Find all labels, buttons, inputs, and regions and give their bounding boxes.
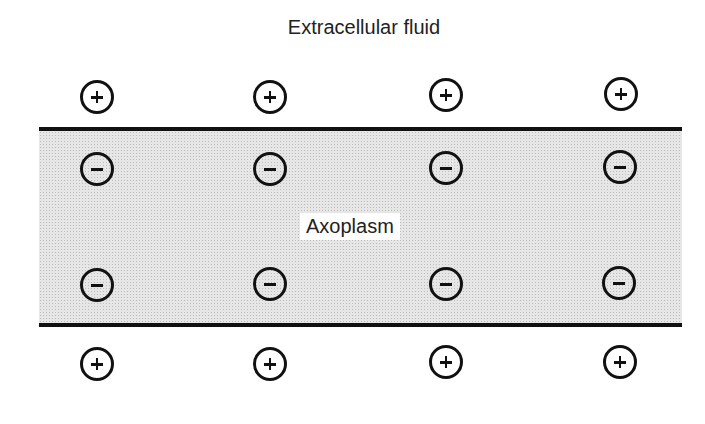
positive-ion-icon xyxy=(429,345,463,379)
minus-icon xyxy=(263,162,277,176)
positive-ion-icon xyxy=(253,347,287,381)
plus-icon xyxy=(263,357,277,371)
negative-ion-icon xyxy=(80,152,114,186)
membrane-top xyxy=(39,127,682,131)
negative-ion-icon xyxy=(253,152,287,186)
positive-ion-icon xyxy=(604,77,638,111)
minus-icon xyxy=(439,161,453,175)
positive-ion-icon xyxy=(80,347,114,381)
negative-ion-icon xyxy=(603,150,637,184)
plus-icon xyxy=(90,357,104,371)
positive-ion-icon xyxy=(253,80,287,114)
positive-ion-icon xyxy=(429,78,463,112)
minus-icon xyxy=(90,162,104,176)
plus-icon xyxy=(263,90,277,104)
negative-ion-icon xyxy=(80,268,114,302)
plus-icon xyxy=(614,87,628,101)
positive-ion-icon xyxy=(603,345,637,379)
negative-ion-icon xyxy=(253,267,287,301)
axoplasm-label: Axoplasm xyxy=(300,213,400,240)
negative-ion-icon xyxy=(602,266,636,300)
plus-icon xyxy=(90,90,104,104)
negative-ion-icon xyxy=(429,267,463,301)
extracellular-fluid-label: Extracellular fluid xyxy=(0,16,705,39)
positive-ion-icon xyxy=(80,80,114,114)
minus-icon xyxy=(439,277,453,291)
plus-icon xyxy=(439,88,453,102)
plus-icon xyxy=(439,355,453,369)
negative-ion-icon xyxy=(429,151,463,185)
minus-icon xyxy=(90,278,104,292)
minus-icon xyxy=(613,160,627,174)
membrane-bottom xyxy=(39,323,682,327)
minus-icon xyxy=(263,277,277,291)
minus-icon xyxy=(612,276,626,290)
plus-icon xyxy=(613,355,627,369)
